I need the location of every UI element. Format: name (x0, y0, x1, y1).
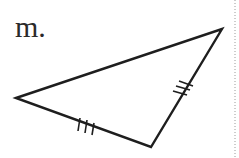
figure-canvas: m. (0, 0, 239, 158)
triangle-diagram (0, 0, 239, 158)
triangle (16, 29, 222, 147)
